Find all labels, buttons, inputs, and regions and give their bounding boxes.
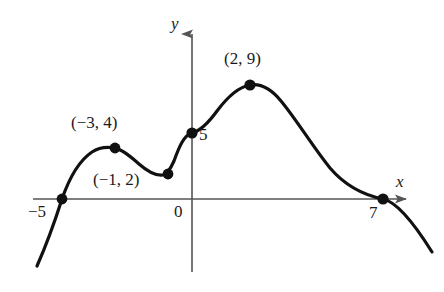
point-x-intercept-right [377,193,388,204]
label-global-max: (2, 9) [224,50,261,67]
point-local-max-left [110,143,121,154]
x-tick-label-minus-5: −5 [28,203,46,220]
label-local-max-left: (−3, 4) [71,114,117,131]
y-tick-label-5: 5 [199,126,208,143]
point-global-max [244,79,255,90]
origin-label: 0 [174,203,183,220]
label-local-min: (−1, 2) [93,171,139,188]
y-axis-label: y [171,15,179,32]
point-x-intercept-left [57,194,68,205]
graph-figure: y x 0 −5 7 5 (−3, 4) (−1, 2) (2, 9) [0,0,444,292]
x-axis-label: x [396,173,404,190]
x-tick-label-7: 7 [369,204,378,221]
graph-canvas [0,0,444,292]
point-local-min [163,169,174,180]
point-y-intercept [186,127,197,138]
